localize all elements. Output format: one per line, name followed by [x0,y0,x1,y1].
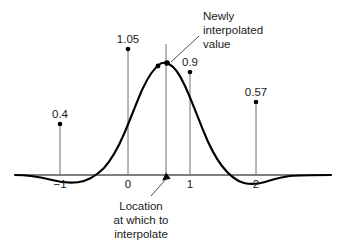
interpolation-curve [15,63,331,184]
newly-interpolated-line-3: value [203,37,263,51]
sample-dot-2 [188,70,193,75]
interpolation-figure: 0.4 1.05 0.9 0.57 −1 0 1 2 Newly interpo… [0,0,340,250]
sample-value-label-0: 0.4 [48,108,72,121]
curve-peak-dot [156,64,161,69]
sample-dot-3 [254,100,259,105]
sample-value-label-2: 0.9 [178,56,202,69]
location-leader-line [151,178,167,196]
newly-interpolated-line-1: Newly [203,9,263,23]
location-arrowhead-icon [162,173,170,181]
location-annotation: Location at which to interpolate [101,199,181,241]
x-tick-label-2: 2 [246,178,266,191]
sample-dot-0 [58,122,63,127]
location-line-2: at which to [101,213,181,227]
sample-value-label-1: 1.05 [112,33,144,46]
location-line-1: Location [101,199,181,213]
x-tick-label-minus-1: −1 [48,178,72,191]
newly-interpolated-line-2: interpolated [203,23,263,37]
sample-dot-1 [126,47,131,52]
newly-interpolated-annotation: Newly interpolated value [203,9,263,51]
sample-value-label-3: 0.57 [240,86,272,99]
x-tick-label-1: 1 [180,178,200,191]
x-tick-label-0: 0 [118,178,138,191]
location-line-3: interpolate [101,227,181,241]
interpolated-value-dot [164,60,170,66]
